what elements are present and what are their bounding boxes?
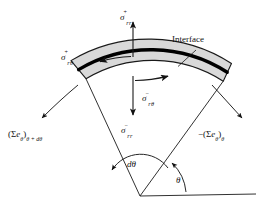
flux-right-subscript: θ xyxy=(221,136,224,142)
label-flux-right: −(Σeθ)θ xyxy=(198,130,224,141)
sigma-rtheta-plus-subscript: rθ xyxy=(67,59,73,66)
sigma-rtheta-minus-subscript: rθ xyxy=(148,100,154,107)
label-sigma-rtheta-plus: σ+rθ xyxy=(61,47,75,65)
label-flux-left: (Σeθ)θ + dθ xyxy=(8,130,42,141)
flux-left-subscript: θ + dθ xyxy=(26,136,42,142)
flux-right-e-subscript: θ xyxy=(215,136,218,142)
label-sigma-rr-minus: σ−rr xyxy=(121,120,134,138)
label-interface: Interface xyxy=(172,35,204,44)
label-theta: θ xyxy=(176,176,180,185)
stress-element-figure: σ+rr σ+rθ Interface σ−rθ σ−rr (Σeθ)θ + d… xyxy=(0,0,266,209)
sigma-rtheta-plus-superscript: + xyxy=(64,49,67,55)
flux-right-arrow xyxy=(212,85,242,118)
label-sigma-rr-plus: σ+rr xyxy=(120,7,133,25)
sigma-rtheta-minus-superscript: − xyxy=(145,90,148,96)
flux-left-arrow xyxy=(42,85,78,118)
label-sigma-rtheta-minus: σ−rθ xyxy=(142,88,156,106)
flux-left-e-subscript: θ xyxy=(20,136,23,142)
sigma-rtheta-minus-arrow xyxy=(135,76,168,80)
curved-band xyxy=(71,39,232,81)
sigma-rr-plus-subscript: rr xyxy=(126,19,131,26)
sigma-rr-plus-superscript: + xyxy=(123,9,126,15)
d-theta-arc-arrow xyxy=(112,154,168,170)
figure-canvas xyxy=(0,0,266,209)
sigma-rr-minus-superscript: − xyxy=(124,122,127,128)
label-d-theta: dθ xyxy=(127,160,136,169)
sigma-rr-minus-subscript: rr xyxy=(127,132,132,139)
horizontal-baseline xyxy=(140,194,256,196)
